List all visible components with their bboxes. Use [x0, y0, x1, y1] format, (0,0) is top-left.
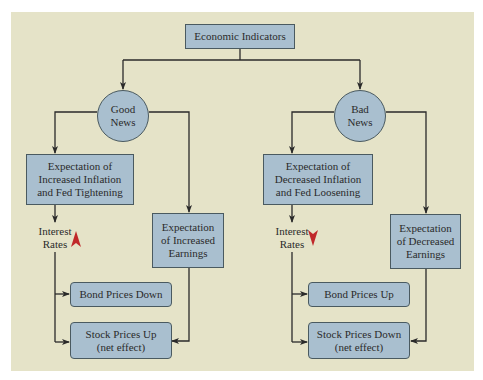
bond-label: Bond Prices Up	[324, 288, 394, 301]
expectation-line-1: Expectation of	[286, 160, 350, 173]
stock-line-1: Stock Prices Up	[86, 328, 157, 341]
expectation-line-3: and Fed Loosening	[276, 186, 360, 199]
earnings-line-1: Expectation	[399, 222, 452, 235]
good-news-label-2: News	[110, 116, 135, 129]
earnings-line-3: Earnings	[168, 247, 207, 260]
expectation-line-2: Decreased Inflation	[275, 173, 361, 186]
good-news-label-1: Good	[111, 103, 135, 116]
good-news-node: Good News	[97, 90, 149, 142]
economic-indicators-label: Economic Indicators	[194, 30, 285, 43]
expectation-line-3: and Fed Tightening	[37, 186, 123, 199]
increased-earnings-expectation-box: Expectation of Increased Earnings	[152, 213, 224, 268]
bond-prices-up-box: Bond Prices Up	[308, 282, 410, 307]
bond-prices-down-box: Bond Prices Down	[70, 282, 172, 307]
earnings-line-1: Expectation	[162, 221, 215, 234]
earnings-line-2: of Increased	[161, 234, 215, 247]
bad-news-label-2: News	[347, 116, 372, 129]
stock-prices-up-box: Stock Prices Up (net effect)	[70, 322, 172, 359]
expectation-line-2: Increased Inflation	[39, 173, 122, 186]
expectation-line-1: Expectation of	[48, 160, 112, 173]
stock-line-2: (net effect)	[97, 341, 145, 354]
stock-line-2: (net effect)	[335, 341, 383, 354]
stock-line-1: Stock Prices Down	[317, 328, 401, 341]
bad-news-node: Bad News	[334, 90, 386, 142]
economic-indicators-box: Economic Indicators	[185, 24, 295, 49]
rates-up-arrow-icon	[71, 231, 81, 247]
bond-label: Bond Prices Down	[79, 288, 162, 301]
decreased-earnings-expectation-box: Expectation of Decreased Earnings	[390, 214, 461, 269]
increased-inflation-expectation-box: Expectation of Increased Inflation and F…	[26, 154, 134, 205]
earnings-line-3: Earnings	[406, 248, 445, 261]
decreased-inflation-expectation-box: Expectation of Decreased Inflation and F…	[263, 154, 373, 205]
stock-prices-down-box: Stock Prices Down (net effect)	[308, 322, 410, 359]
rates-down-arrow-icon	[308, 230, 318, 246]
earnings-line-2: of Decreased	[397, 235, 455, 248]
bad-news-label-1: Bad	[351, 103, 369, 116]
